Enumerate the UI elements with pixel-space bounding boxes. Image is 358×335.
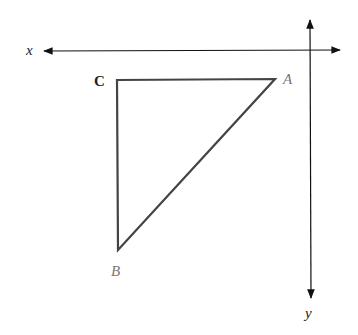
coordinate-diagram: x y C A B	[0, 0, 358, 335]
x-axis-label: x	[25, 42, 33, 58]
triangle-abc	[117, 79, 275, 250]
vertex-label-b: B	[111, 263, 120, 279]
x-axis	[44, 50, 340, 51]
y-axis-label: y	[303, 305, 312, 321]
vertex-label-c: C	[94, 73, 105, 89]
y-axis	[310, 20, 311, 298]
vertex-label-a: A	[282, 71, 293, 87]
